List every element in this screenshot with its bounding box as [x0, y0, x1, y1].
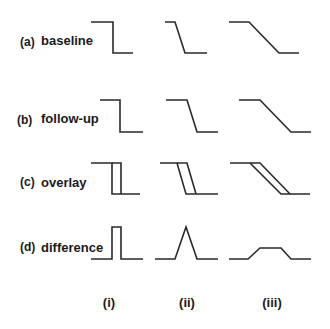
- profile-followup-sharp: [100, 100, 143, 132]
- profile-difference-moderate: [155, 227, 218, 259]
- profile-overlay-gradual-baseline: [230, 163, 310, 194]
- profile-baseline-moderate: [165, 22, 207, 53]
- profile-baseline-gradual: [229, 22, 299, 53]
- profile-baseline-sharp: [91, 22, 133, 53]
- profile-overlay-sharp-baseline: [91, 163, 140, 194]
- profile-overlay-moderate-followup: [177, 163, 196, 194]
- profile-difference-gradual: [229, 248, 311, 259]
- profile-overlay-sharp-followup: [112, 163, 121, 194]
- profile-diagram: [0, 0, 330, 329]
- profile-followup-moderate: [166, 100, 218, 132]
- profile-overlay-gradual-followup: [250, 163, 290, 194]
- profile-difference-sharp: [91, 227, 143, 259]
- profile-followup-gradual: [239, 100, 311, 132]
